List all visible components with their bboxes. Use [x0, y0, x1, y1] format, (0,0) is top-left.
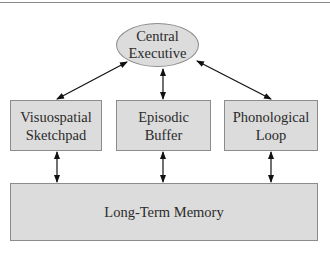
node-line1: Phonological: [233, 108, 310, 126]
central-line1: Central: [129, 28, 187, 45]
node-line2: Buffer: [138, 126, 189, 144]
visuospatial-sketchpad-node: Visuospatial Sketchpad: [10, 100, 102, 151]
episodic-buffer-node: Episodic Buffer: [116, 100, 211, 151]
ltm-label: Long-Term Memory: [104, 203, 223, 221]
node-line2: Sketchpad: [20, 126, 92, 144]
central-line2: Executive: [129, 45, 187, 62]
node-line2: Loop: [233, 126, 310, 144]
node-line1: Episodic: [138, 108, 189, 126]
arrow-ce-visuospatial: [57, 62, 127, 99]
long-term-memory-node: Long-Term Memory: [10, 183, 318, 241]
node-line1: Visuospatial: [20, 108, 92, 126]
phonological-loop-node: Phonological Loop: [224, 100, 318, 151]
arrow-ce-phonological: [197, 61, 271, 99]
central-executive-node: Central Executive: [116, 23, 199, 67]
